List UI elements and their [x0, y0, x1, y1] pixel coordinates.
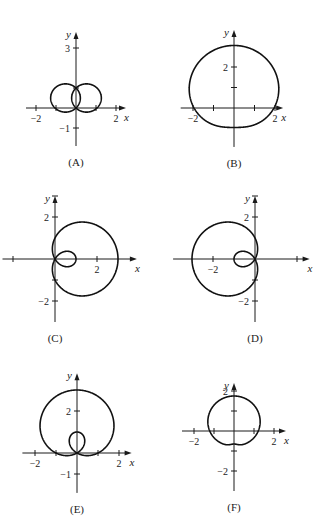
- x-axis-label: x: [129, 456, 135, 468]
- x-axis-arrow-icon: [125, 451, 132, 456]
- y-axis-arrow-icon: [253, 196, 258, 203]
- y-axis-arrow-icon: [74, 32, 79, 39]
- x-tick-label: −2: [188, 113, 199, 124]
- x-tick-label: 2: [95, 264, 100, 275]
- y-tick-label: 2: [66, 406, 71, 417]
- polar-plot-c: xy22−2(C): [3, 192, 140, 345]
- y-tick-label: 2: [244, 212, 249, 223]
- polar-plot-d: xy−22−2(D): [173, 192, 313, 345]
- y-axis-label: y: [66, 369, 72, 381]
- x-axis-label: x: [123, 111, 129, 123]
- y-axis-label: y: [65, 28, 71, 40]
- x-axis-arrow-icon: [130, 257, 137, 262]
- x-axis-arrow-icon: [279, 429, 286, 434]
- y-tick-label: 2: [223, 62, 228, 73]
- y-tick-label: 3: [65, 43, 70, 54]
- y-tick-label: 2: [223, 386, 228, 397]
- y-tick-label: −2: [38, 296, 49, 307]
- y-axis-arrow-icon: [75, 373, 80, 380]
- x-tick-label: 2: [117, 458, 122, 469]
- plot-caption: (F): [227, 501, 241, 514]
- plot-caption: (A): [68, 156, 84, 169]
- polar-graphs-figure: xy−223−1(A)xy−222(B)xy22−2(C)xy−22−2(D)x…: [0, 0, 316, 528]
- x-axis-arrow-icon: [119, 106, 126, 111]
- polar-plot-f: xy−222−2(F): [182, 379, 289, 514]
- polar-plot-b: xy−222(B): [181, 26, 287, 170]
- plot-caption: (D): [247, 332, 263, 345]
- polar-plot-a: xy−223−1(A): [26, 28, 129, 169]
- plot-caption: (B): [227, 157, 242, 170]
- x-tick-label: −2: [208, 264, 219, 275]
- x-axis-label: x: [280, 111, 286, 123]
- x-tick-label: −2: [30, 458, 41, 469]
- plot-caption: (C): [48, 332, 63, 345]
- y-axis-arrow-icon: [53, 196, 58, 203]
- x-axis-arrow-icon: [303, 257, 310, 262]
- x-tick-label: 2: [272, 436, 277, 447]
- y-axis-arrow-icon: [232, 30, 237, 37]
- y-axis-label: y: [244, 192, 250, 204]
- x-tick-label: −2: [189, 436, 200, 447]
- x-tick-label: 2: [273, 113, 278, 124]
- plot-caption: (E): [70, 503, 84, 516]
- y-axis-arrow-icon: [232, 383, 237, 390]
- y-tick-label: −1: [59, 123, 70, 134]
- x-tick-label: −2: [31, 113, 42, 124]
- y-tick-label: 2: [44, 212, 49, 223]
- y-axis-label: y: [44, 192, 50, 204]
- x-axis-label: x: [283, 434, 289, 446]
- x-tick-label: 2: [114, 113, 119, 124]
- y-tick-label: −2: [217, 466, 228, 477]
- x-axis-label: x: [307, 262, 313, 274]
- polar-plot-e: xy−222−1(E): [22, 369, 134, 516]
- x-axis-label: x: [134, 262, 140, 274]
- y-tick-label: −2: [238, 296, 249, 307]
- y-tick-label: −1: [60, 469, 71, 480]
- y-axis-label: y: [223, 26, 229, 38]
- x-axis-arrow-icon: [276, 106, 283, 111]
